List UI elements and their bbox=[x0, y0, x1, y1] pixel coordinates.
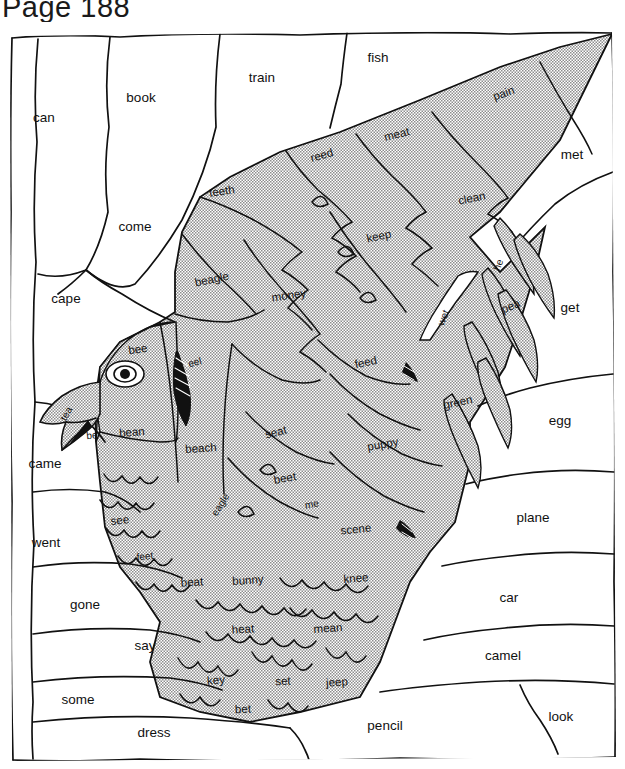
page-title: Page 188 bbox=[2, 0, 130, 24]
hidden-picture-svg: canbooktrainfishmetcomecapegeteggcamewen… bbox=[0, 22, 625, 769]
worksheet-page: Page 188 bbox=[0, 0, 625, 769]
picture-canvas: canbooktrainfishmetcomecapegeteggcamewen… bbox=[0, 22, 625, 769]
